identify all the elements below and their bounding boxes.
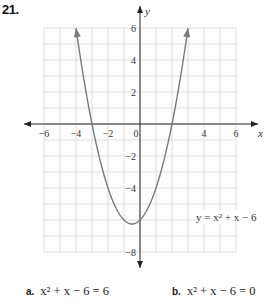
y-tick-label: 6 <box>131 23 136 34</box>
x-tick-label: −4 <box>71 128 82 139</box>
part-a-letter: a. <box>26 286 34 297</box>
x-tick-label: 4 <box>202 128 207 139</box>
y-tick-label: −4 <box>125 183 136 194</box>
graph: yx −6−4−2046642−2−4−8 y = x² + x − 6 <box>0 0 276 280</box>
part-a-equation: x² + x − 6 = 6 <box>40 284 109 298</box>
y-tick-label: 2 <box>131 87 136 98</box>
x-tick-label: 6 <box>234 128 239 139</box>
function-label: y = x² + x − 6 <box>196 211 257 223</box>
x-tick-label: 0 <box>134 128 139 139</box>
y-tick-label: −8 <box>125 247 136 258</box>
curve-right-arrow <box>183 28 190 37</box>
y-tick-label: 4 <box>131 55 136 66</box>
x-axis-left-arrow <box>24 121 31 127</box>
x-tick-label: −2 <box>103 128 114 139</box>
part-a: a.x² + x − 6 = 6 <box>26 284 109 299</box>
x-axis-label: x <box>257 127 263 139</box>
y-axis-label: y <box>144 5 150 17</box>
y-axis-up-arrow <box>137 6 143 13</box>
part-b-letter: b. <box>172 286 181 297</box>
curve-left-arrow <box>74 28 81 37</box>
part-b: b.x² + x − 6 = 0 <box>172 284 256 299</box>
part-b-equation: x² + x − 6 = 0 <box>187 284 256 298</box>
annotations: y = x² + x − 6 <box>195 210 276 224</box>
x-tick-label: −6 <box>39 128 50 139</box>
y-axis-down-arrow <box>137 261 143 268</box>
y-tick-label: −2 <box>125 151 136 162</box>
x-axis-right-arrow <box>251 121 258 127</box>
